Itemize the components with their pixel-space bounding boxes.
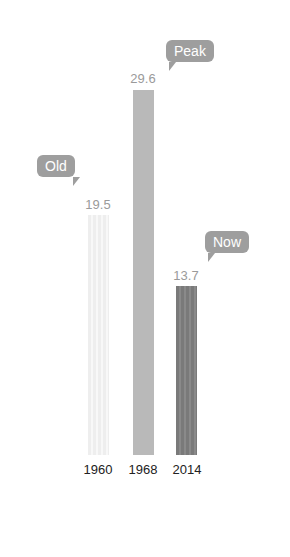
annotation-text-peak: Peak	[174, 43, 206, 59]
annotation-text-now: Now	[213, 234, 241, 250]
bar-2014	[176, 286, 197, 455]
x-tick-2014: 2014	[167, 462, 207, 477]
bubble-tail-icon	[73, 177, 80, 186]
annotation-bubble-peak: Peak	[166, 40, 214, 62]
bar-chart: 19.5 1960 Old 29.6 1968 Peak 13.7 2014 N…	[0, 0, 290, 557]
bubble-tail-icon	[208, 253, 215, 262]
value-label-1968: 29.6	[123, 71, 163, 86]
annotation-bubble-now: Now	[205, 231, 249, 253]
x-tick-1968: 1968	[123, 462, 163, 477]
bubble-tail-icon	[169, 62, 176, 71]
value-label-2014: 13.7	[166, 268, 206, 283]
x-tick-1960: 1960	[78, 462, 118, 477]
annotation-text-old: Old	[45, 158, 67, 174]
value-label-1960: 19.5	[78, 197, 118, 212]
bar-1968	[133, 90, 154, 455]
annotation-bubble-old: Old	[37, 155, 75, 177]
bar-1960	[88, 215, 109, 455]
